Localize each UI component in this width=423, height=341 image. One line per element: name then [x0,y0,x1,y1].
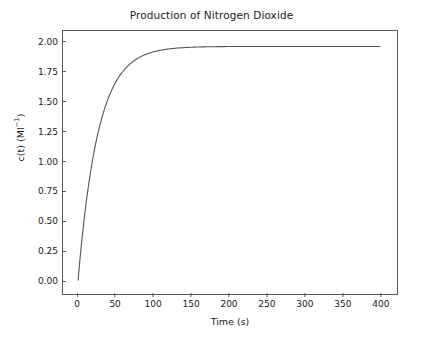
x-tick-label: 0 [74,299,80,309]
y-tick-label: 0.00 [38,276,62,286]
y-axis-label-prefix: c(t) (Ml [15,127,26,161]
x-tick-label: 100 [144,299,161,309]
y-tick-label: 0.75 [38,186,62,196]
x-tick-label: 250 [258,299,275,309]
curve-polyline [78,46,380,280]
x-tick-mark [115,293,116,297]
x-tick: 100 [144,293,161,309]
y-tick-label: 1.50 [38,97,62,107]
y-tick: 1.50 [38,97,62,107]
x-tick-mark [266,293,267,297]
x-tick-label: 50 [109,299,120,309]
x-tick-mark [380,293,381,297]
x-tick: 250 [258,293,275,309]
x-tick: 300 [296,293,313,309]
y-tick-label: 0.50 [38,216,62,226]
y-tick-mark [62,191,66,192]
x-tick-label: 300 [296,299,313,309]
plot-area [62,30,398,295]
y-tick-mark [62,41,66,42]
data-series-line [63,31,397,294]
y-tick-label: 2.00 [38,37,62,47]
chart-title: Production of Nitrogen Dioxide [0,9,423,21]
y-tick: 0.50 [38,216,62,226]
x-tick-label: 200 [220,299,237,309]
x-tick: 350 [334,293,351,309]
y-tick: 2.00 [38,37,62,47]
y-tick: 0.25 [38,246,62,256]
x-tick-mark [304,293,305,297]
y-tick: 1.75 [38,67,62,77]
x-tick-label: 350 [334,299,351,309]
x-tick-mark [153,293,154,297]
y-axis-label: c(t) (Ml−1) [15,78,26,198]
y-tick: 0.00 [38,276,62,286]
y-tick-label: 1.75 [38,67,62,77]
x-tick-mark [229,293,230,297]
y-tick-mark [62,131,66,132]
x-tick: 150 [182,293,199,309]
x-tick: 400 [372,293,389,309]
y-axis-label-suffix: ) [15,114,26,118]
x-tick: 50 [109,293,120,309]
x-tick-label: 400 [372,299,389,309]
y-tick-label: 1.25 [38,127,62,137]
y-tick-mark [62,281,66,282]
y-tick-mark [62,251,66,252]
x-tick-label: 150 [182,299,199,309]
y-tick-label: 1.00 [38,157,62,167]
x-tick: 200 [220,293,237,309]
x-tick: 0 [74,293,80,309]
y-tick: 1.00 [38,157,62,167]
y-tick-mark [62,101,66,102]
x-tick-mark [77,293,78,297]
x-tick-mark [342,293,343,297]
y-axis-label-exponent: −1 [13,117,21,127]
y-tick: 0.75 [38,186,62,196]
y-tick-mark [62,71,66,72]
x-tick-mark [191,293,192,297]
y-tick-mark [62,221,66,222]
y-tick-mark [62,161,66,162]
chart-figure: Production of Nitrogen Dioxide 0.000.250… [0,0,423,341]
x-axis-label: Time (s) [62,316,398,327]
y-tick-label: 0.25 [38,246,62,256]
y-tick: 1.25 [38,127,62,137]
